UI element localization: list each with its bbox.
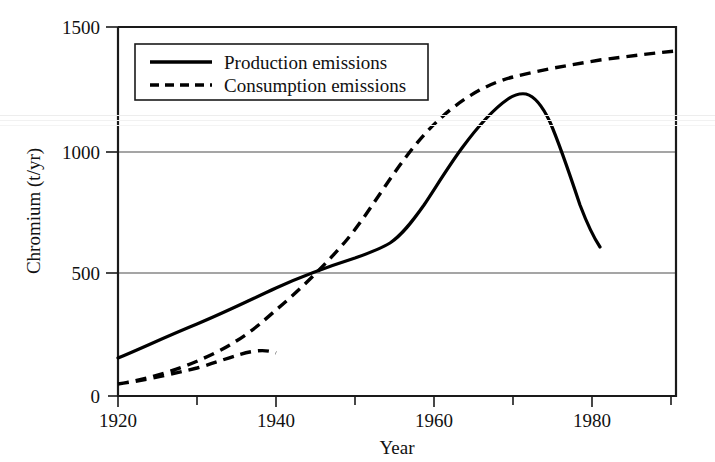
line-chart: 1500 1000 500 0 1920 1940 1960 1980 Year…: [0, 0, 715, 462]
ytick-label-1500: 1500: [62, 17, 100, 38]
xtick-label-1920: 1920: [99, 410, 137, 431]
consumption-emissions-line: [118, 51, 676, 384]
chart-figure: 1500 1000 500 0 1920 1940 1960 1980 Year…: [0, 0, 715, 462]
xtick-label-1960: 1960: [415, 410, 453, 431]
ytick-label-500: 500: [72, 263, 101, 284]
ytick-label-0: 0: [91, 386, 101, 407]
xtick-label-1940: 1940: [257, 410, 295, 431]
xtick-label-1980: 1980: [573, 410, 611, 431]
ytick-label-1000: 1000: [62, 142, 100, 163]
chart-legend: Production emissions Consumption emissio…: [135, 44, 428, 100]
legend-label-consumption: Consumption emissions: [224, 75, 406, 96]
y-axis-title: Chromium (t/yr): [23, 148, 45, 274]
legend-label-production: Production emissions: [224, 52, 387, 73]
x-axis-title: Year: [379, 437, 415, 458]
